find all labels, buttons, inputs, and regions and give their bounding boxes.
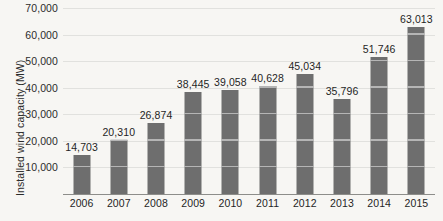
x-axis-tick-label: 2013 bbox=[323, 197, 360, 209]
x-axis-tick-label: 2006 bbox=[63, 197, 100, 209]
y-axis-tick-label: 70,000 bbox=[12, 2, 58, 14]
y-axis-tick-label: 60,000 bbox=[12, 29, 58, 41]
x-axis-tick-label: 2011 bbox=[249, 197, 286, 209]
x-axis-tick-label: 2008 bbox=[137, 197, 174, 209]
x-axis-tick-labels: 2006200720082009201020112012201320142015 bbox=[63, 0, 435, 221]
y-axis-tick-label: 50,000 bbox=[12, 55, 58, 67]
y-axis-tick-label: 20,000 bbox=[12, 135, 58, 147]
y-axis-tick-label: 10,000 bbox=[12, 161, 58, 173]
y-axis-tick-labels: 10,00020,00030,00040,00050,00060,00070,0… bbox=[8, 0, 58, 221]
x-axis-tick-label: 2014 bbox=[361, 197, 398, 209]
x-axis-tick-label: 2010 bbox=[212, 197, 249, 209]
y-axis-tick-label: 30,000 bbox=[12, 108, 58, 120]
bar-chart-figure: Installed wind capacity (MW) 10,00020,00… bbox=[0, 0, 443, 221]
x-axis-tick-label: 2009 bbox=[175, 197, 212, 209]
x-axis-tick-label: 2015 bbox=[398, 197, 435, 209]
x-axis-tick-label: 2007 bbox=[100, 197, 137, 209]
x-axis-tick-label: 2012 bbox=[286, 197, 323, 209]
y-axis-tick-label: 40,000 bbox=[12, 82, 58, 94]
